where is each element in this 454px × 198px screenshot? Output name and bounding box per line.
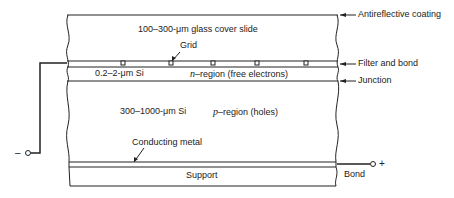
conducting-metal-label: Conducting metal xyxy=(132,138,202,147)
negative-sign: – xyxy=(15,148,21,158)
support-label: Support xyxy=(186,171,218,180)
p-region-text: –region (holes) xyxy=(218,107,278,117)
n-layer-label: 0.2–2-μm Si xyxy=(95,69,144,78)
junction-label: Junction xyxy=(358,76,392,85)
cover-slide-label: 100–300-μm glass cover slide xyxy=(138,25,258,34)
negative-wire xyxy=(31,63,67,153)
cover-material: glass cover slide xyxy=(189,24,258,34)
p-layer-material: Si xyxy=(176,106,187,116)
n-layer-unit: μm xyxy=(121,68,134,78)
cover-thickness: 100–300- xyxy=(138,24,176,34)
grid-contact xyxy=(121,61,125,65)
n-layer-material: Si xyxy=(133,68,144,78)
n-layer-thickness: 0.2–2- xyxy=(95,68,121,78)
antireflective-coating-label: Antireflective coating xyxy=(358,10,441,19)
positive-sign: + xyxy=(379,159,385,169)
n-region-label: n–region (free electrons) xyxy=(190,69,288,79)
grid-contact xyxy=(255,61,259,65)
filter-bond-arrowhead xyxy=(340,62,346,66)
n-region-text: –region (free electrons) xyxy=(195,69,288,79)
bond-label: Bond xyxy=(344,170,365,179)
grid-contact xyxy=(304,61,308,65)
p-region-label: p–region (holes) xyxy=(213,107,278,117)
junction-arrowhead xyxy=(340,79,346,83)
antireflective-arrowhead xyxy=(340,13,346,17)
p-layer-thickness: 300–1000- xyxy=(120,106,163,116)
grid-label: Grid xyxy=(180,41,197,50)
negative-terminal xyxy=(26,151,31,156)
grid-contact xyxy=(211,61,215,65)
cover-unit: μm xyxy=(176,24,189,34)
left-break-edge xyxy=(67,15,70,186)
grid-contact xyxy=(169,61,173,65)
right-break-edge xyxy=(336,15,339,186)
positive-terminal xyxy=(371,162,376,167)
p-layer-label: 300–1000-μm Si xyxy=(120,107,186,116)
p-layer-unit: μm xyxy=(163,106,176,116)
filter-bond-label: Filter and bond xyxy=(358,59,418,68)
